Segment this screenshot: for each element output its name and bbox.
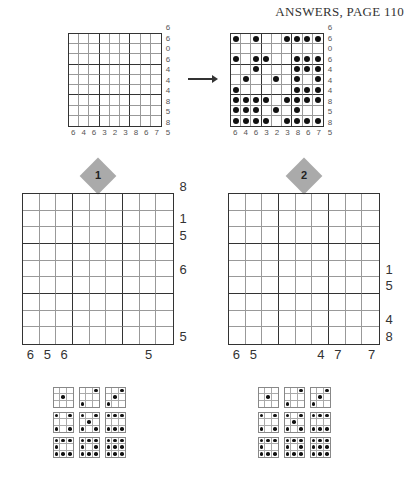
- grid-cell[interactable]: [56, 194, 73, 211]
- grid-cell[interactable]: [156, 294, 173, 311]
- grid-cell[interactable]: [23, 277, 40, 294]
- grid-cell[interactable]: [156, 327, 173, 344]
- grid-cell[interactable]: [123, 277, 140, 294]
- grid-cell[interactable]: [279, 294, 296, 311]
- grid-cell[interactable]: [90, 211, 107, 228]
- grid-cell[interactable]: [229, 327, 246, 344]
- grid-cell[interactable]: [246, 211, 263, 228]
- grid-cell[interactable]: [246, 277, 263, 294]
- grid-cell[interactable]: [23, 194, 40, 211]
- grid-cell[interactable]: [23, 261, 40, 278]
- grid-cell[interactable]: [140, 244, 157, 261]
- grid-cell[interactable]: [329, 211, 346, 228]
- grid-cell[interactable]: [23, 311, 40, 328]
- grid-cell[interactable]: [140, 261, 157, 278]
- grid-cell[interactable]: [140, 227, 157, 244]
- grid-cell[interactable]: [262, 194, 279, 211]
- grid-cell[interactable]: [312, 294, 329, 311]
- grid-cell[interactable]: [73, 211, 90, 228]
- grid-cell[interactable]: [279, 311, 296, 328]
- grid-cell[interactable]: [73, 277, 90, 294]
- grid-cell[interactable]: [229, 194, 246, 211]
- grid-cell[interactable]: [262, 261, 279, 278]
- grid-cell[interactable]: [23, 244, 40, 261]
- grid-cell[interactable]: [246, 294, 263, 311]
- grid-cell[interactable]: [279, 227, 296, 244]
- grid-cell[interactable]: [40, 327, 57, 344]
- grid-cell[interactable]: [90, 261, 107, 278]
- grid-cell[interactable]: [73, 311, 90, 328]
- grid-cell[interactable]: [262, 294, 279, 311]
- grid-cell[interactable]: [56, 311, 73, 328]
- grid-cell[interactable]: [140, 211, 157, 228]
- grid-cell[interactable]: [73, 261, 90, 278]
- grid-cell[interactable]: [329, 294, 346, 311]
- grid-cell[interactable]: [123, 261, 140, 278]
- grid-cell[interactable]: [73, 194, 90, 211]
- grid-cell[interactable]: [40, 194, 57, 211]
- grid-cell[interactable]: [362, 277, 379, 294]
- grid-cell[interactable]: [56, 261, 73, 278]
- grid-cell[interactable]: [123, 194, 140, 211]
- grid-cell[interactable]: [329, 194, 346, 211]
- grid-cell[interactable]: [73, 244, 90, 261]
- grid-cell[interactable]: [279, 194, 296, 211]
- grid-cell[interactable]: [40, 294, 57, 311]
- grid-cell[interactable]: [123, 227, 140, 244]
- grid-cell[interactable]: [106, 327, 123, 344]
- grid-cell[interactable]: [296, 211, 313, 228]
- grid-cell[interactable]: [262, 311, 279, 328]
- grid-cell[interactable]: [279, 327, 296, 344]
- grid-cell[interactable]: [362, 261, 379, 278]
- grid-cell[interactable]: [312, 211, 329, 228]
- grid-cell[interactable]: [246, 227, 263, 244]
- grid-cell[interactable]: [329, 277, 346, 294]
- grid-cell[interactable]: [279, 211, 296, 228]
- grid-cell[interactable]: [229, 261, 246, 278]
- grid-cell[interactable]: [40, 244, 57, 261]
- grid-cell[interactable]: [123, 311, 140, 328]
- grid-cell[interactable]: [73, 227, 90, 244]
- grid-cell[interactable]: [140, 311, 157, 328]
- grid-cell[interactable]: [156, 311, 173, 328]
- grid-cell[interactable]: [329, 311, 346, 328]
- grid-cell[interactable]: [279, 277, 296, 294]
- grid-cell[interactable]: [106, 244, 123, 261]
- grid-cell[interactable]: [140, 194, 157, 211]
- grid-cell[interactable]: [296, 227, 313, 244]
- grid-cell[interactable]: [140, 294, 157, 311]
- grid-cell[interactable]: [123, 244, 140, 261]
- grid-cell[interactable]: [262, 227, 279, 244]
- grid-cell[interactable]: [229, 311, 246, 328]
- grid-cell[interactable]: [90, 294, 107, 311]
- grid-cell[interactable]: [362, 211, 379, 228]
- grid-cell[interactable]: [346, 227, 363, 244]
- grid-cell[interactable]: [262, 327, 279, 344]
- grid-cell[interactable]: [106, 311, 123, 328]
- grid-cell[interactable]: [346, 277, 363, 294]
- grid-cell[interactable]: [140, 277, 157, 294]
- grid-cell[interactable]: [279, 261, 296, 278]
- grid-cell[interactable]: [246, 311, 263, 328]
- grid-cell[interactable]: [312, 261, 329, 278]
- grid-cell[interactable]: [329, 244, 346, 261]
- grid-cell[interactable]: [246, 194, 263, 211]
- grid-cell[interactable]: [346, 194, 363, 211]
- grid-cell[interactable]: [90, 277, 107, 294]
- grid-cell[interactable]: [346, 211, 363, 228]
- grid-cell[interactable]: [329, 261, 346, 278]
- grid-cell[interactable]: [329, 227, 346, 244]
- grid-cell[interactable]: [346, 294, 363, 311]
- grid-cell[interactable]: [296, 194, 313, 211]
- grid-cell[interactable]: [40, 277, 57, 294]
- grid-cell[interactable]: [40, 261, 57, 278]
- grid-cell[interactable]: [156, 227, 173, 244]
- grid-cell[interactable]: [56, 294, 73, 311]
- grid-cell[interactable]: [56, 327, 73, 344]
- grid-cell[interactable]: [362, 327, 379, 344]
- grid-cell[interactable]: [296, 311, 313, 328]
- grid-cell[interactable]: [106, 227, 123, 244]
- grid-cell[interactable]: [106, 211, 123, 228]
- grid-cell[interactable]: [23, 211, 40, 228]
- grid-cell[interactable]: [346, 327, 363, 344]
